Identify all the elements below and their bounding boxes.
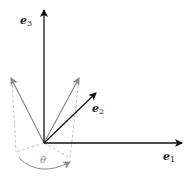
- axis-e2-arrow: [44, 93, 96, 143]
- label-e1: e1: [163, 150, 175, 164]
- rotated-vector-right: [44, 78, 79, 143]
- projection-right-base: [44, 143, 70, 158]
- projection-left-vertical: [12, 80, 16, 152]
- label-theta: θ: [40, 154, 46, 165]
- label-e3: e3: [20, 14, 32, 28]
- projection-left-base: [16, 143, 44, 152]
- label-e2: e2: [92, 102, 104, 116]
- rotation-diagram: e3 e2 e1 θ: [0, 0, 194, 179]
- rotated-vector-left: [11, 78, 44, 143]
